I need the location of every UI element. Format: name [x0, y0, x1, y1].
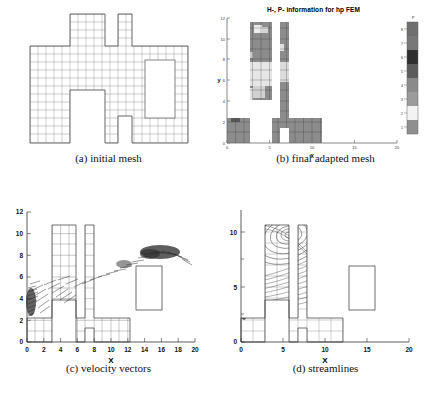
- svg-text:1: 1: [401, 126, 403, 130]
- svg-text:10: 10: [310, 145, 315, 150]
- domain-outline-d: [241, 225, 343, 342]
- svg-text:8: 8: [92, 346, 96, 353]
- mesh-grid-d: [241, 210, 409, 342]
- svg-text:2: 2: [401, 112, 403, 116]
- svg-text:4: 4: [59, 346, 63, 353]
- mesh-hole-b: [330, 60, 360, 107]
- velocity-vectors-c: [26, 245, 192, 316]
- panel-b-title: H-, P- information for hp FEM: [205, 6, 422, 13]
- svg-text:18: 18: [175, 346, 183, 353]
- svg-text:0: 0: [233, 338, 237, 345]
- mesh-hole-c: [136, 266, 162, 310]
- colorbar-b: p 87 65 43: [401, 14, 418, 134]
- svg-text:20: 20: [395, 145, 400, 150]
- panel-d-caption: (d) streamlines: [217, 362, 434, 374]
- svg-text:16: 16: [158, 346, 166, 353]
- panel-d-plot: 05 1015 20 05 10 X: [217, 192, 434, 370]
- svg-text:5: 5: [233, 284, 237, 291]
- svg-text:0: 0: [25, 346, 29, 353]
- domain-outline-c: [27, 225, 130, 342]
- svg-text:12: 12: [16, 208, 24, 215]
- svg-text:10: 10: [321, 346, 329, 353]
- svg-text:4: 4: [401, 84, 403, 88]
- panel-b-final-adapted-mesh: H-, P- information for hp FEM: [217, 0, 434, 185]
- svg-text:0: 0: [239, 346, 243, 353]
- mesh-hole-d: [349, 266, 375, 310]
- panel-b-plot: 05 1015 20 02 46 810 12 X y: [217, 0, 434, 165]
- panel-b-caption: (b) final adapted mesh: [217, 152, 434, 164]
- panel-c-velocity-vectors: 02 46 810 1214 1618 20 02 46 810 12 X: [0, 192, 217, 399]
- svg-text:6: 6: [223, 78, 226, 83]
- panel-b-ylabel: y: [217, 77, 221, 83]
- svg-text:4: 4: [19, 295, 23, 302]
- svg-text:2: 2: [223, 120, 226, 125]
- mesh-hole-a: [145, 60, 175, 118]
- panel-a-caption: (a) initial mesh: [0, 152, 217, 164]
- panel-c-caption: (c) velocity vectors: [0, 362, 217, 374]
- svg-text:5: 5: [401, 70, 403, 74]
- panel-c-plot: 02 46 810 1214 1618 20 02 46 810 12 X: [0, 192, 217, 370]
- svg-text:0: 0: [226, 145, 229, 150]
- svg-text:10: 10: [107, 346, 115, 353]
- svg-text:4: 4: [223, 99, 226, 104]
- svg-text:15: 15: [352, 145, 357, 150]
- svg-text:3: 3: [401, 98, 403, 102]
- svg-text:20: 20: [405, 346, 413, 353]
- svg-text:15: 15: [363, 346, 371, 353]
- svg-text:5: 5: [281, 346, 285, 353]
- panel-a-initial-mesh: (a) initial mesh: [0, 0, 217, 185]
- svg-text:6: 6: [401, 56, 403, 60]
- svg-text:12: 12: [221, 16, 226, 21]
- panel-c-axes: 02 46 810 1214 1618 20 02 46 810 12 X: [16, 208, 199, 365]
- svg-text:0: 0: [19, 338, 23, 345]
- adapted-mesh-blocks: [227, 18, 402, 148]
- svg-text:10: 10: [221, 37, 226, 42]
- svg-text:10: 10: [16, 230, 24, 237]
- svg-text:6: 6: [76, 346, 80, 353]
- svg-text:12: 12: [124, 346, 132, 353]
- colorbar-label: p: [412, 14, 415, 19]
- svg-text:5: 5: [268, 145, 271, 150]
- svg-text:8: 8: [223, 57, 226, 62]
- svg-text:8: 8: [19, 252, 23, 259]
- svg-text:8: 8: [401, 28, 403, 32]
- svg-text:6: 6: [19, 273, 23, 280]
- svg-text:2: 2: [19, 317, 23, 324]
- figure-container: (a) initial mesh H-, P- information for …: [0, 0, 434, 399]
- svg-text:10: 10: [230, 229, 238, 236]
- panel-d-streamlines: 05 1015 20 05 10 X: [217, 192, 434, 399]
- svg-text:14: 14: [141, 346, 149, 353]
- svg-text:20: 20: [191, 346, 199, 353]
- panel-a-plot: [0, 0, 217, 160]
- svg-text:7: 7: [401, 42, 403, 46]
- svg-text:2: 2: [42, 346, 46, 353]
